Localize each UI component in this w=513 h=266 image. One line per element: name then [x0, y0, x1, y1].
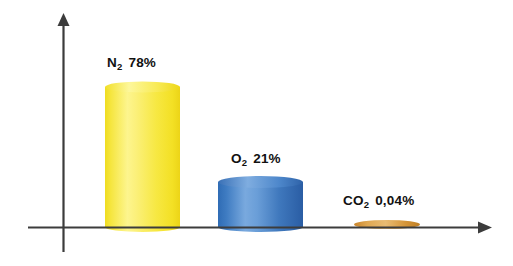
bar-n2-cap [105, 82, 180, 93]
bar-label-n2-symbol: N [107, 55, 117, 70]
bar-label-o2-value: 21% [253, 151, 281, 166]
chart-container: N278% O221% CO20,04% [0, 0, 513, 266]
bar-o2-cap [218, 176, 303, 188]
category-axis-arrow [478, 222, 492, 234]
bar-label-co2-subscript: 2 [364, 199, 369, 210]
bar-label-o2: O221% [231, 152, 281, 166]
bar-n2 [105, 82, 180, 233]
bar-o2-body [218, 182, 303, 227]
bar-label-n2: N278% [107, 56, 156, 70]
bar-label-co2-value: 0,04% [375, 193, 414, 208]
value-axis-arrow [58, 13, 70, 26]
bar-label-o2-subscript: 2 [242, 157, 247, 168]
bar-label-o2-symbol: O [231, 151, 242, 166]
bar-n2-body [105, 87, 180, 227]
bar-o2 [218, 176, 303, 232]
bar-label-co2: CO20,04% [343, 194, 414, 208]
bar-label-n2-subscript: 2 [117, 61, 122, 72]
bar-label-n2-value: 78% [128, 55, 156, 70]
chart-canvas [0, 0, 513, 266]
bar-label-co2-symbol: CO [343, 193, 364, 208]
